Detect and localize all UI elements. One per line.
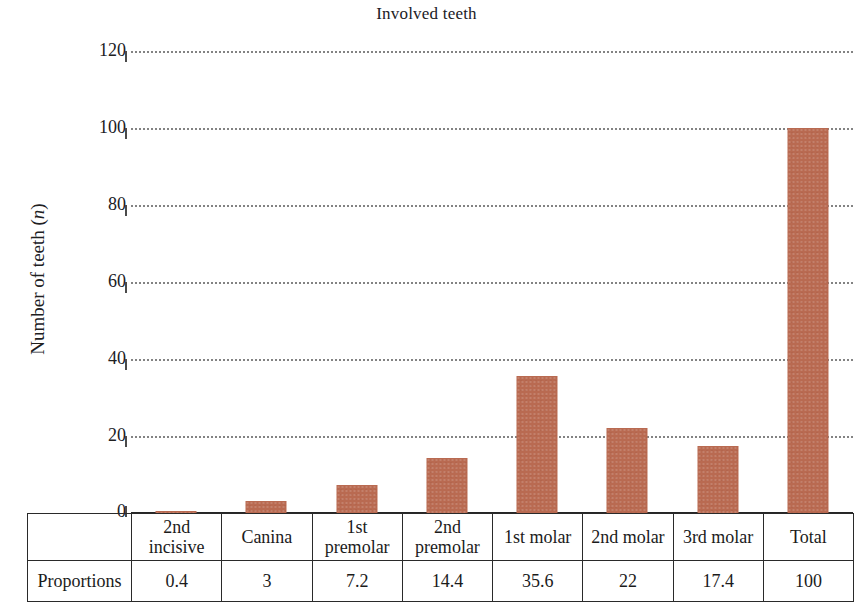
category-label-line1: 3rd molar [674,527,763,547]
plot-area: 120 100 80 60 40 20 0 [131,51,853,513]
category-label-line2: premolar [403,537,492,557]
bar-canina[interactable] [246,501,287,513]
category-label-line1: 2nd [403,517,492,537]
y-tick-label-60: 60 [22,272,126,290]
bar-slot-canina [221,51,311,513]
y-tick-label-100: 100 [22,118,126,136]
bar-3rd-molar[interactable] [697,446,738,513]
bars-layer [131,51,853,513]
proportions-table: 2nd incisive Canina 1st premolar 2nd pre… [27,513,854,602]
bar-1st-molar[interactable] [517,376,558,513]
category-cell-total: Total [763,514,853,561]
chart-title: Involved teeth [0,4,853,24]
bar-2nd-premolar[interactable] [426,458,467,513]
bar-slot-3rd-molar [673,51,763,513]
category-cell-1st-premolar: 1st premolar [312,514,402,561]
y-tick-label-120: 120 [22,41,126,59]
proportion-cell-2nd-premolar: 14.4 [402,561,492,602]
y-tick-mark-40 [125,359,127,370]
row-header-proportions: Proportions [28,561,132,602]
y-tick-mark-60 [125,282,127,293]
proportion-cell-3rd-molar: 17.4 [673,561,763,602]
category-label-line1: Total [764,527,853,547]
category-cell-2nd-incisive: 2nd incisive [132,514,222,561]
category-label-line2: incisive [132,537,221,557]
category-label-line1: 2nd [132,517,221,537]
category-cell-2nd-molar: 2nd molar [583,514,673,561]
bar-total[interactable] [787,128,828,513]
category-label-line1: 1st molar [493,527,582,547]
proportion-cell-total: 100 [763,561,853,602]
category-label-line1: 1st [313,517,402,537]
y-tick-label-80: 80 [22,195,126,213]
category-cell-canina: Canina [222,514,312,561]
y-tick-mark-20 [125,436,127,447]
category-cell-1st-molar: 1st molar [493,514,583,561]
proportion-cell-1st-molar: 35.6 [493,561,583,602]
bar-slot-2nd-molar [582,51,672,513]
bar-2nd-molar[interactable] [607,428,648,513]
category-label-line2: premolar [313,537,402,557]
proportion-cell-1st-premolar: 7.2 [312,561,402,602]
proportion-cell-2nd-incisive: 0.4 [132,561,222,602]
bar-1st-premolar[interactable] [336,485,377,513]
proportion-cell-canina: 3 [222,561,312,602]
table-corner-cell [28,514,132,561]
category-cell-2nd-premolar: 2nd premolar [402,514,492,561]
y-tick-label-20: 20 [22,426,126,444]
category-label-line1: 2nd molar [583,527,672,547]
bar-slot-2nd-premolar [402,51,492,513]
bar-slot-2nd-incisive [131,51,221,513]
table-row-categories: 2nd incisive Canina 1st premolar 2nd pre… [28,514,854,561]
y-tick-mark-100 [125,128,127,139]
y-tick-mark-80 [125,205,127,216]
y-tick-label-40: 40 [22,349,126,367]
proportion-cell-2nd-molar: 22 [583,561,673,602]
bar-slot-1st-molar [492,51,582,513]
category-label-line1: Canina [222,527,311,547]
table-row-proportions: Proportions 0.4 3 7.2 14.4 35.6 22 17.4 … [28,561,854,602]
bar-slot-total [763,51,853,513]
y-tick-mark-120 [125,51,127,62]
bar-slot-1st-premolar [312,51,402,513]
category-cell-3rd-molar: 3rd molar [673,514,763,561]
